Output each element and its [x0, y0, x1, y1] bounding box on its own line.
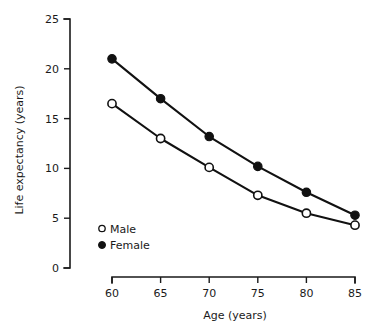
data-point-female-65 — [156, 94, 164, 102]
x-axis-title: Age (years) — [203, 309, 267, 322]
y-axis-ticks — [64, 19, 70, 268]
data-point-female-75 — [254, 162, 262, 170]
data-point-female-80 — [302, 188, 310, 196]
y-axis-title: Life expectancy (years) — [13, 85, 26, 214]
x-axis-tick-labels: 60 65 70 75 80 85 — [105, 287, 362, 300]
legend-item-male: Male — [99, 223, 136, 236]
data-point-male-65 — [157, 134, 165, 142]
y-tick-label-0: 0 — [52, 262, 59, 275]
data-point-male-70 — [205, 163, 213, 171]
series-male-line — [112, 104, 355, 226]
x-tick-label-70: 70 — [202, 287, 216, 300]
series-female-line — [112, 59, 355, 215]
y-tick-label-10: 10 — [45, 162, 59, 175]
chart-legend: Male Female — [99, 223, 151, 253]
y-axis-tick-labels: 25 20 15 10 5 0 — [45, 13, 59, 275]
y-axis-line — [64, 19, 70, 268]
series-female — [108, 55, 359, 220]
y-tick-label-25: 25 — [45, 13, 59, 26]
data-point-female-70 — [205, 132, 213, 140]
y-tick-label-15: 15 — [45, 113, 59, 126]
data-point-female-85 — [351, 211, 359, 219]
x-tick-label-65: 65 — [154, 287, 168, 300]
series-male — [108, 100, 359, 230]
legend-marker-filled-circle-icon — [99, 242, 106, 249]
data-point-male-85 — [351, 221, 359, 229]
data-point-male-75 — [254, 191, 262, 199]
x-tick-label-85: 85 — [348, 287, 362, 300]
data-point-male-60 — [108, 100, 116, 108]
chart-figure: 25 20 15 10 5 0 60 65 70 75 80 85 — [0, 0, 369, 335]
legend-marker-open-circle-icon — [99, 225, 105, 231]
x-tick-label-60: 60 — [105, 287, 119, 300]
data-point-female-60 — [108, 55, 116, 63]
x-tick-label-80: 80 — [299, 287, 313, 300]
x-axis-line — [112, 277, 355, 283]
legend-label-female: Female — [110, 239, 150, 252]
y-tick-label-5: 5 — [52, 212, 59, 225]
x-axis-ticks — [112, 277, 355, 283]
y-tick-label-20: 20 — [45, 63, 59, 76]
legend-label-male: Male — [110, 223, 136, 236]
legend-item-female: Female — [99, 239, 151, 252]
line-chart: 25 20 15 10 5 0 60 65 70 75 80 85 — [0, 0, 369, 335]
data-point-male-80 — [302, 209, 310, 217]
x-tick-label-75: 75 — [251, 287, 265, 300]
